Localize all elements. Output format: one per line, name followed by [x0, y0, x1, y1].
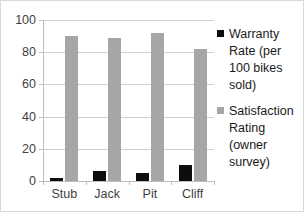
chart-frame: 100806040200 StubJackPitCliff Warranty R…	[0, 0, 304, 212]
x-axis-tick	[214, 181, 215, 185]
bar-warranty[interactable]	[136, 173, 149, 181]
y-axis-label: 60	[22, 77, 36, 91]
x-axis-label: Pit	[129, 187, 172, 201]
bar-group: Pit	[129, 20, 172, 181]
gray-square-icon	[217, 107, 224, 114]
chart-legend: Warranty Rate (per 100 bikes sold) Satis…	[217, 26, 303, 180]
y-axis-label: 80	[22, 45, 36, 59]
y-axis-label: 40	[22, 110, 36, 124]
bar-warranty[interactable]	[93, 171, 106, 181]
y-axis-label: 20	[22, 142, 36, 156]
x-axis-label: Cliff	[171, 187, 214, 201]
bar-group: Cliff	[171, 20, 214, 181]
x-axis-tick	[43, 181, 44, 185]
bar-satisfaction[interactable]	[151, 33, 164, 181]
y-axis-label: 0	[29, 174, 36, 188]
x-axis-tick	[171, 181, 172, 185]
legend-label-warranty: Warranty Rate (per 100 bikes sold)	[229, 26, 303, 94]
x-axis-label: Stub	[43, 187, 86, 201]
plot-area: 100806040200 StubJackPitCliff	[43, 20, 214, 181]
legend-item-warranty: Warranty Rate (per 100 bikes sold)	[217, 26, 303, 94]
legend-label-satisfaction: Satisfaction Rating (owner survey)	[229, 103, 303, 171]
bar-satisfaction[interactable]	[108, 38, 121, 181]
bar-warranty[interactable]	[179, 165, 192, 181]
bar-satisfaction[interactable]	[194, 49, 207, 181]
black-square-icon	[217, 30, 224, 37]
x-axis-tick	[129, 181, 130, 185]
bar-group: Stub	[43, 20, 86, 181]
bar-warranty[interactable]	[50, 178, 63, 181]
legend-item-satisfaction: Satisfaction Rating (owner survey)	[217, 103, 303, 171]
bar-group: Jack	[86, 20, 129, 181]
y-axis-label: 100	[15, 13, 36, 27]
bar-satisfaction[interactable]	[65, 36, 78, 181]
x-axis-tick	[86, 181, 87, 185]
x-axis-label: Jack	[86, 187, 129, 201]
